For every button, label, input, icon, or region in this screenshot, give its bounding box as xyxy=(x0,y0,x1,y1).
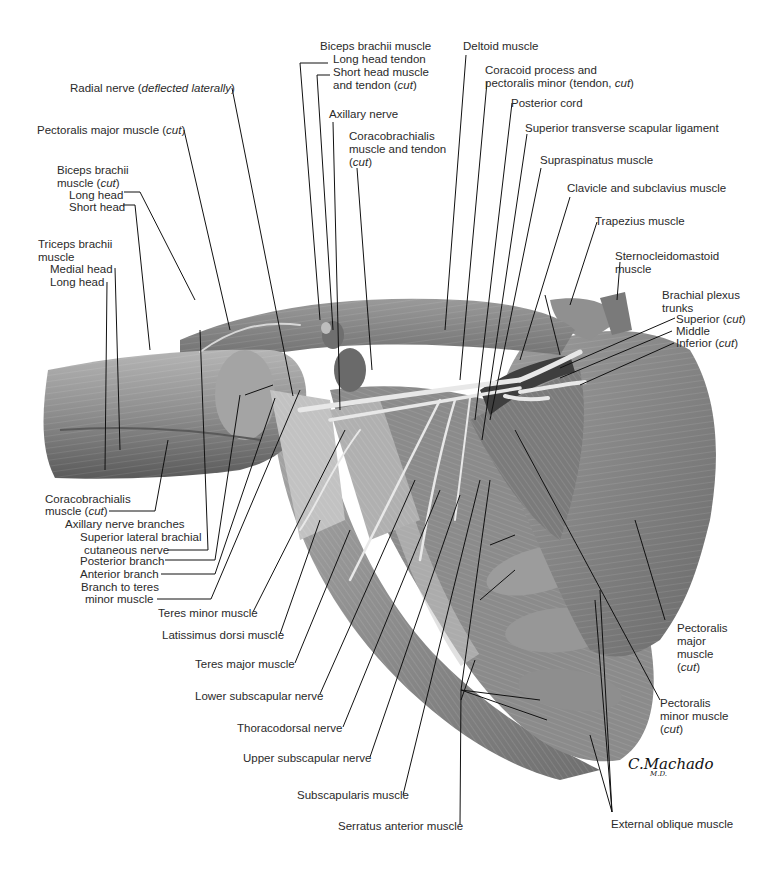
arm-muscles xyxy=(44,350,307,479)
label-biceps-brachii-cut-1: Biceps brachii xyxy=(57,164,129,177)
label-radial-nerve: Radial nerve (deflected laterally) xyxy=(70,82,235,95)
label-pectoralis-major-right-4: (cut) xyxy=(677,661,700,674)
label-posterior-branch: Posterior branch xyxy=(80,555,164,568)
label-serratus-anterior-muscle: Serratus anterior muscle xyxy=(338,820,463,833)
artist-signature: C.MachadoM.D. xyxy=(628,755,714,778)
label-subscapularis-muscle: Subscapularis muscle xyxy=(297,789,409,802)
label-short-head-muscle: Short head muscle xyxy=(333,66,429,79)
label-biceps-brachii-muscle: Biceps brachii muscle xyxy=(320,40,431,53)
label-latissimus-dorsi-muscle: Latissimus dorsi muscle xyxy=(162,629,284,642)
label-trapezius-muscle: Trapezius muscle xyxy=(595,215,685,228)
label-deltoid-muscle: Deltoid muscle xyxy=(463,40,538,53)
label-axillary-nerve: Axillary nerve xyxy=(329,108,398,121)
label-pectoralis-major-right-2: major xyxy=(677,635,706,648)
label-triceps-long-head: Long head xyxy=(50,276,104,289)
label-sternocleidomastoid-1: Sternocleidomastoid xyxy=(615,250,719,263)
label-teres-minor-muscle: Teres minor muscle xyxy=(158,607,258,620)
label-pectoralis-major-right-1: Pectoralis xyxy=(677,622,728,635)
label-coracobrachialis-cut-2: muscle (cut) xyxy=(45,505,108,518)
label-short-head-tendon: and tendon (cut) xyxy=(333,79,417,92)
label-long-head-tendon: Long head tendon xyxy=(333,53,426,66)
label-axillary-nerve-branches: Axillary nerve branches xyxy=(65,518,185,531)
label-coracobrachialis-tendon-2: muscle and tendon xyxy=(349,143,446,156)
label-lower-subscapular-nerve: Lower subscapular nerve xyxy=(195,690,324,703)
label-biceps-short-head: Short head xyxy=(69,201,125,214)
label-upper-subscapular-nerve: Upper subscapular nerve xyxy=(243,752,372,765)
label-pectoralis-minor-tendon: pectoralis minor (tendon, cut) xyxy=(485,77,634,90)
label-pectoralis-minor-right-1: Pectoralis xyxy=(660,697,711,710)
label-thoracodorsal-nerve: Thoracodorsal nerve xyxy=(237,722,342,735)
label-superior-transverse-scapular-ligament: Superior transverse scapular ligament xyxy=(525,122,719,135)
label-coracobrachialis-tendon-3: (cut) xyxy=(349,156,372,169)
label-pectoralis-minor-right-2: minor muscle xyxy=(660,710,728,723)
label-triceps-medial-head: Medial head xyxy=(50,263,113,276)
label-supraspinatus-muscle: Supraspinatus muscle xyxy=(540,154,653,167)
label-coracobrachialis-tendon-1: Coracobrachialis xyxy=(349,130,435,143)
label-pectoralis-major-cut: Pectoralis major muscle (cut) xyxy=(37,124,185,137)
label-superior-lateral-brachial-1: Superior lateral brachial xyxy=(80,531,201,544)
label-teres-major-muscle: Teres major muscle xyxy=(195,658,295,671)
label-inferior-trunk: Inferior (cut) xyxy=(676,337,738,350)
label-external-oblique-muscle: External oblique muscle xyxy=(611,818,733,831)
label-pectoralis-minor-right-3: (cut) xyxy=(660,723,683,736)
label-posterior-cord: Posterior cord xyxy=(511,97,583,110)
label-branch-to-teres-2: minor muscle xyxy=(85,593,153,606)
label-sternocleidomastoid-2: muscle xyxy=(615,263,651,276)
label-anterior-branch: Anterior branch xyxy=(80,568,159,581)
anatomy-figure: Biceps brachii muscle Long head tendon S… xyxy=(0,0,781,885)
label-coracoid-process: Coracoid process and xyxy=(485,64,597,77)
label-pectoralis-major-right-3: muscle xyxy=(677,648,713,661)
label-clavicle-subclavius: Clavicle and subclavius muscle xyxy=(567,182,726,195)
label-brachial-plexus-1: Brachial plexus xyxy=(662,289,740,302)
label-triceps-brachii-1: Triceps brachii xyxy=(38,238,112,251)
